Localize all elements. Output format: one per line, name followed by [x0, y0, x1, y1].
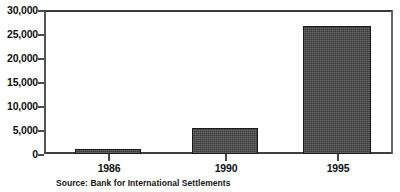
- x-axis-label-1986: 1986: [69, 162, 149, 174]
- x-tick-mark-1995: [337, 154, 339, 161]
- y-tick-label-20000: 20,000: [7, 52, 38, 64]
- x-axis-label-1995: 1995: [298, 162, 378, 174]
- y-tick-label-15000: 15,000: [7, 76, 38, 88]
- y-tick-mark-20000: [38, 58, 44, 60]
- bar-1990: [192, 128, 258, 154]
- y-tick-mark-15000: [38, 82, 44, 84]
- x-tick-mark-1986: [108, 154, 110, 161]
- bar-chart-figure: 30,000 25,000 20,000 15,000 10,000 5,000…: [0, 0, 400, 192]
- y-tick-mark-0: [38, 154, 44, 156]
- source-note: Source: Bank for International Settlemen…: [56, 178, 231, 188]
- y-tick-label-10000: 10,000: [7, 100, 38, 112]
- x-tick-mark-1990: [225, 154, 227, 161]
- bar-1995: [303, 26, 371, 154]
- y-tick-label-30000: 30,000: [7, 4, 38, 16]
- x-axis-label-1990: 1990: [186, 162, 266, 174]
- y-tick-label-25000: 25,000: [7, 28, 38, 40]
- bars-layer: [46, 12, 391, 154]
- y-tick-mark-30000: [38, 10, 44, 12]
- y-tick-mark-25000: [38, 34, 44, 36]
- y-tick-label-5000: 5,000: [13, 124, 38, 136]
- y-tick-mark-5000: [38, 130, 44, 132]
- y-tick-mark-10000: [38, 106, 44, 108]
